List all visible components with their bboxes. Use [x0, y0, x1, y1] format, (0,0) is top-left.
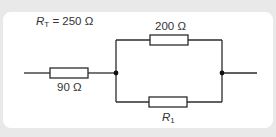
resistor-200-ohm [150, 35, 188, 45]
resistor-90-ohm [50, 68, 88, 78]
label-90-ohm: 90 Ω [57, 81, 82, 93]
resistor-r1 [149, 97, 187, 107]
junction-left [114, 71, 119, 76]
junction-right [220, 71, 225, 76]
total-resistance-label: RT = 250 Ω [36, 15, 93, 29]
label-r1: R1 [162, 111, 175, 125]
label-200-ohm: 200 Ω [155, 20, 186, 32]
